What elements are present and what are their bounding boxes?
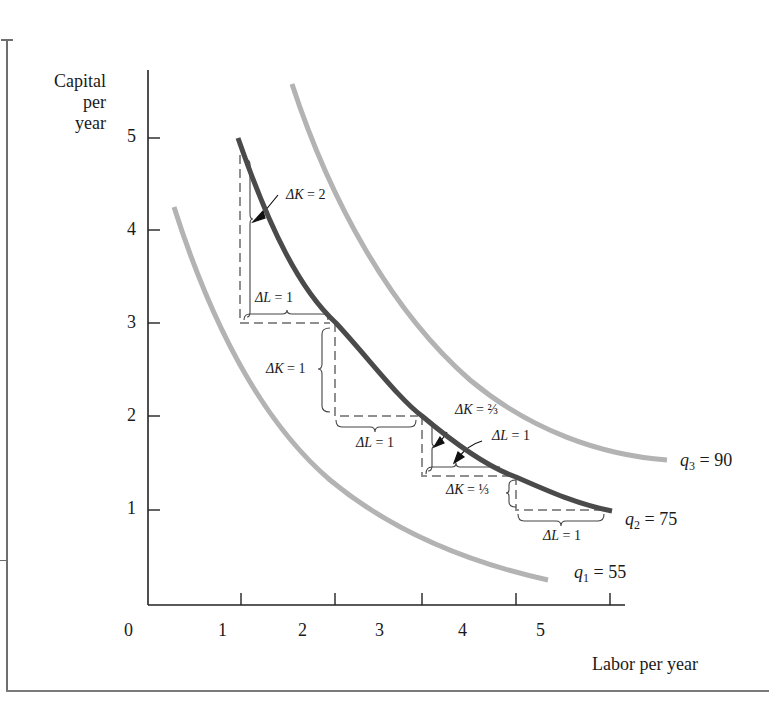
x-tick-label: 1 [218,620,227,641]
label-var: q [680,450,689,470]
braces [244,160,604,526]
annotation-delta-l-1: ΔL = 1 [255,290,293,306]
annotation-delta-l-1: ΔL = 1 [492,428,530,444]
label-value: = 75 [640,509,677,529]
arrows [253,195,482,463]
label-var: q [625,509,634,529]
x-tick-label: 2 [298,620,307,641]
y-tick-label: 3 [127,312,136,333]
x-axis-title: Labor per year [592,654,698,675]
annotation-value: = 2 [304,187,326,202]
annotation-var: ΔK [286,187,304,202]
annotation-var: ΔL [492,428,508,443]
label-value: = 90 [695,450,732,470]
annotation-delta-l-1: ΔL = 1 [356,435,394,451]
annotation-var: ΔK [266,361,284,376]
y-tick-label: 2 [127,405,136,426]
annotation-value: = 1 [559,528,581,543]
y-axis-title-line-2: per [36,92,106,113]
y-axis-title-line-1: Capital [36,71,106,92]
annotation-value: = 1 [271,290,293,305]
label-var: q [574,562,583,582]
y-axis-title-line-3: year [36,113,106,134]
isoquant-q1 [174,207,548,580]
annotation-var: ΔL [356,435,372,450]
annotation-delta-k-one-third: ΔK = ⅓ [446,482,489,498]
annotation-var: ΔK [446,482,464,497]
isoquant-chart [0,0,769,703]
annotation-value: = 1 [284,361,306,376]
annotation-delta-k-2: ΔK = 2 [286,187,325,203]
y-axis-ticks [148,138,160,510]
x-tick-label: 3 [375,620,384,641]
label-q1: q1 = 55 [574,562,626,586]
label-value: = 55 [589,562,626,582]
annotation-var: ΔK [455,402,473,417]
annotation-value: = ⅔ [473,402,498,417]
annotation-delta-k-1: ΔK = 1 [266,361,305,377]
x-tick-label: 5 [536,620,545,641]
annotation-value: = ⅓ [464,482,489,497]
label-q2: q2 = 75 [625,509,677,533]
x-tick-label: 4 [458,620,467,641]
annotation-value: = 1 [372,435,394,450]
x-axis-ticks [241,593,610,605]
y-axis-title: Capital per year [36,71,106,134]
annotation-value: = 1 [508,428,530,443]
y-tick-label: 1 [127,498,136,519]
y-tick-label: 4 [127,219,136,240]
y-tick-label: 5 [127,126,136,147]
annotation-var: ΔL [255,290,271,305]
annotation-delta-l-1: ΔL = 1 [543,528,581,544]
annotation-var: ΔL [543,528,559,543]
annotation-delta-k-two-thirds: ΔK = ⅔ [455,402,498,418]
label-q3: q3 = 90 [680,450,732,474]
x-tick-label: 0 [124,620,133,641]
